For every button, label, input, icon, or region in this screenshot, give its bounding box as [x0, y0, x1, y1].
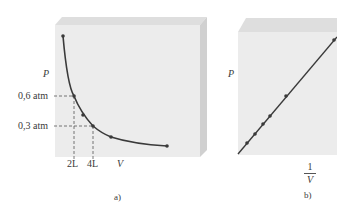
panel-b-x-axis-label: 1 V: [303, 162, 317, 185]
panel-a-caption: a): [114, 192, 121, 202]
fraction-numerator: 1: [303, 162, 317, 172]
panel-a-y-axis-label: P: [43, 68, 49, 79]
panel-b-caption: b): [304, 190, 312, 200]
y-tick-0-6-atm: 0,6 atm: [18, 90, 48, 101]
fraction-denominator: V: [303, 175, 317, 185]
panel-b-block: [238, 18, 337, 155]
panel-a-block: [55, 17, 207, 157]
y-tick-0-3-atm: 0,3 atm: [18, 120, 48, 131]
x-tick-2l: 2L: [67, 158, 78, 169]
panel-b-y-axis-label: P: [228, 68, 234, 79]
x-tick-4l: 4L: [87, 158, 98, 169]
diagram-canvas: [0, 0, 337, 219]
panel-a-x-axis-label: V: [117, 158, 123, 169]
